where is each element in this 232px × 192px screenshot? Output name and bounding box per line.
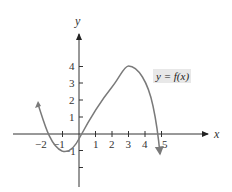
y-tick-label: 3 xyxy=(69,77,75,89)
y-axis: y 4 3 2 1 −1 xyxy=(64,14,83,187)
x-tick-label: 1 xyxy=(93,138,99,150)
x-axis-label: x xyxy=(213,127,220,141)
x-tick-label: 2 xyxy=(109,138,115,150)
y-tick-label: 1 xyxy=(69,111,75,123)
y-tick-label: 4 xyxy=(69,60,75,72)
x-tick-label: 4 xyxy=(142,138,148,150)
x-tick-label: −2 xyxy=(35,138,47,150)
y-tick-label: 2 xyxy=(69,94,75,106)
chart-canvas: x −2 −1 1 2 3 4 5 y 4 3 2 1 −1 y = f(x) xyxy=(0,0,232,192)
x-tick-label: 5 xyxy=(162,138,168,150)
y-axis-label: y xyxy=(74,14,81,28)
x-tick-label: 3 xyxy=(126,138,132,150)
function-label: y = f(x) xyxy=(155,70,189,83)
function-label-box: y = f(x) xyxy=(153,69,191,83)
curve-start-arrow-icon xyxy=(35,101,41,108)
x-axis: x −2 −1 1 2 3 4 5 xyxy=(13,127,220,150)
